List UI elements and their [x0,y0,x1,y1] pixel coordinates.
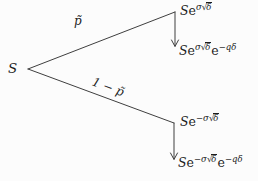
exponent: −qδ [219,42,237,52]
root-node-label: S [8,60,17,76]
branch-up-line [28,12,175,69]
euler-e: e [188,43,195,58]
stock-symbol: S [180,3,189,18]
sqrt-argument: δ [213,113,219,123]
exponent: −σ√δ [194,154,217,164]
euler-e: e [187,155,194,170]
stock-symbol: S [179,43,188,58]
euler-e: e [189,114,196,129]
node-down-label: Se−σ√δ [180,113,219,129]
sqrt-argument: δ [206,2,212,12]
exponent: −σ√δ [196,113,219,123]
stock-symbol: S [178,155,187,170]
euler-e: e [189,3,196,18]
exponent: σ√δ [195,42,211,52]
probability-up-label: p̃ [74,14,82,28]
exponent: σ√δ [196,2,212,12]
node-up-label: Seσ√δ [180,2,212,18]
euler-e: e [217,155,224,170]
exponent: −qδ [225,154,243,164]
euler-e: e [211,43,218,58]
node-up-exdividend-label: Seσ√δe−qδ [179,42,236,58]
node-down-exdividend-label: Se−σ√δe−qδ [178,154,243,170]
binomial-tree-diagram: S p̃ 1 − p̃ Seσ√δ Seσ√δe−qδ Se−σ√δ Se−σ√… [0,0,258,181]
stock-symbol: S [180,114,189,129]
